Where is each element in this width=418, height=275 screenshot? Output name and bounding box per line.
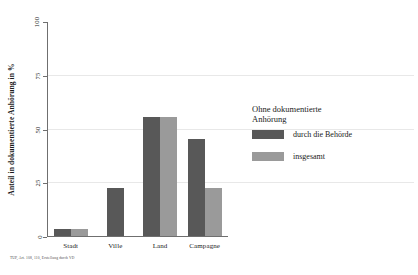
y-tick-label: 100 — [32, 17, 39, 27]
legend-item: insgesamt — [252, 152, 412, 161]
x-axis-label: Campagne — [182, 242, 227, 250]
x-axis-label: Stadt — [48, 242, 93, 250]
y-axis-title: Anteil in dokumentierte Anhörung in % — [4, 22, 18, 237]
y-tick-mark — [43, 130, 47, 131]
y-tick-mark — [43, 183, 47, 184]
y-tick-label: 50 — [34, 126, 41, 133]
bar — [71, 229, 88, 235]
y-tick-label: 0 — [36, 235, 43, 238]
legend-title: Ohne dokumentierte Anhörung — [252, 104, 412, 124]
bar — [54, 229, 71, 235]
y-tick-mark — [43, 237, 47, 238]
x-axis-label: Ville — [93, 242, 138, 250]
bar-group — [48, 22, 93, 236]
legend-swatch — [252, 152, 284, 161]
legend-entries: durch die Behördeinsgesamt — [252, 130, 412, 161]
bar-group — [93, 22, 138, 236]
bar-group — [182, 22, 227, 236]
legend-swatch — [252, 130, 284, 139]
bar-group — [138, 22, 183, 236]
plot-area: 0255075100 StadtVilleLandCampagne — [47, 22, 227, 237]
legend: Ohne dokumentierte Anhörung durch die Be… — [252, 104, 412, 174]
bar — [205, 188, 222, 235]
bar — [188, 139, 205, 236]
bar — [143, 117, 160, 235]
y-tick-mark — [43, 76, 47, 77]
bar — [160, 117, 177, 235]
bar — [107, 188, 124, 235]
x-axis-label: Land — [138, 242, 183, 250]
legend-item: durch die Behörde — [252, 130, 412, 139]
y-tick-mark — [43, 22, 47, 23]
legend-label: durch die Behörde — [293, 130, 352, 139]
y-axis-title-text: Anteil in dokumentierte Anhörung in % — [7, 63, 16, 195]
bar-chart: Anteil in dokumentierte Anhörung in % 02… — [0, 0, 418, 275]
bar-groups — [48, 22, 227, 236]
y-tick-label: 25 — [34, 180, 41, 187]
x-axis-line — [47, 236, 228, 237]
footnote: TUP, Art. 108, 110, Erstellung durch VD — [10, 256, 75, 260]
x-axis-labels: StadtVilleLandCampagne — [48, 242, 227, 250]
y-tick-label: 75 — [34, 72, 41, 79]
legend-label: insgesamt — [293, 152, 325, 161]
